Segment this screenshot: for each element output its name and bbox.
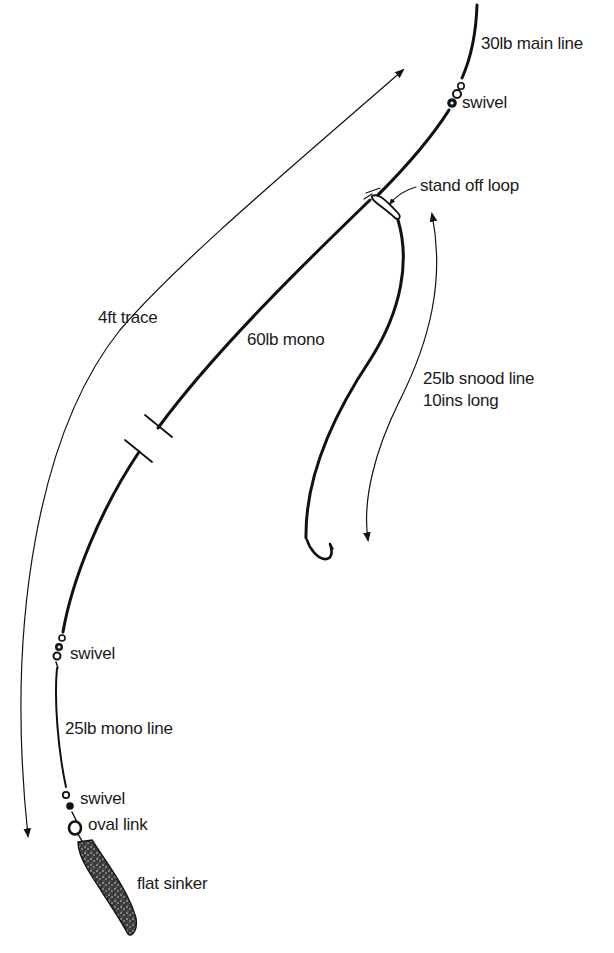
main-line-label: 30lb main line: [481, 34, 583, 53]
line-break-marks: [125, 415, 172, 462]
fishing-rig-diagram: 30lb main line swivel stand off loop 4ft…: [0, 0, 614, 953]
trace-lower-section: [63, 452, 139, 632]
trace-60lb-mono: [158, 200, 370, 428]
stand-off-loop-pointer: [390, 187, 416, 204]
oval-link-label: oval link: [88, 815, 148, 834]
flat-sinker-label: flat sinker: [137, 874, 208, 893]
stand-off-loop-label: stand off loop: [420, 176, 519, 195]
bottom-swivel-icon: [63, 792, 74, 810]
bottom-swivel-label: swivel: [80, 789, 125, 808]
lower-swivel-icon: [54, 635, 66, 668]
main-line: [462, 5, 477, 78]
top-swivel-label: swivel: [462, 93, 507, 112]
mono-60lb-label: 60lb mono: [247, 330, 325, 349]
mono-25lb-label: 25lb mono line: [65, 719, 173, 738]
trace-length-label: 4ft trace: [98, 308, 158, 327]
hook-icon: [307, 540, 333, 559]
oval-link-icon: [69, 812, 82, 841]
snood-length-label: 10ins long: [423, 391, 499, 410]
flat-sinker-icon: [78, 840, 136, 935]
lower-swivel-label: swivel: [70, 644, 115, 663]
snood-line-label: 25lb snood line: [423, 369, 534, 388]
snood-line: [306, 220, 403, 538]
